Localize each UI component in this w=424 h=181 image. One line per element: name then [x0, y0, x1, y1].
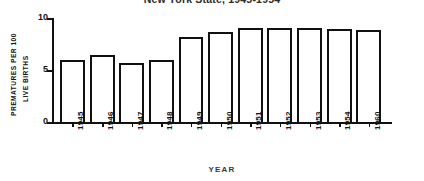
- chart-title: New York State, 1945-1954: [0, 0, 424, 5]
- y-tick-label-5: 5: [43, 64, 48, 75]
- x-tick-1946: [102, 122, 104, 127]
- x-tick-1945: [72, 122, 74, 127]
- y-tick-label-10: 10: [38, 12, 48, 23]
- y-axis-label-line-2: LIVE BIRTHS: [22, 55, 29, 102]
- x-tick-1953: [310, 122, 312, 127]
- x-tick-1948: [161, 122, 163, 127]
- y-tick-label-0: 0: [43, 116, 48, 127]
- x-label-1947: 1947: [136, 111, 145, 130]
- x-label-1946: 1946: [106, 111, 115, 130]
- x-tick-1949: [191, 122, 193, 127]
- x-tick-1960: [369, 122, 371, 127]
- x-label-1954: 1954: [343, 111, 352, 130]
- x-label-1950: 1950: [225, 111, 234, 130]
- x-tick-1951: [250, 122, 252, 127]
- y-axis-label-line-1: PREMATURES PER 100: [10, 33, 17, 116]
- x-label-1960: 1960: [373, 111, 382, 130]
- x-label-1949: 1949: [195, 111, 204, 130]
- bar-1954: [327, 29, 352, 122]
- x-label-1953: 1953: [314, 111, 323, 130]
- x-tick-marks: [52, 122, 392, 127]
- x-tick-1954: [339, 122, 341, 127]
- x-label-1948: 1948: [165, 111, 174, 130]
- x-label-1952: 1952: [284, 111, 293, 130]
- x-label-1945: 1945: [76, 111, 85, 130]
- bar-series: [52, 14, 392, 122]
- y-axis-label: PREMATURES PER 100 LIVE BIRTHS: [2, 16, 28, 120]
- x-axis-title: YEAR: [52, 165, 392, 174]
- bar-1953: [297, 28, 322, 122]
- bar-1950: [208, 32, 233, 122]
- prematures-bar-chart: New York State, 1945-1954 PREMATURES PER…: [0, 0, 424, 181]
- x-tick-1950: [221, 122, 223, 127]
- x-axis-category-labels: 1945194619471948194919501951195219531954…: [52, 128, 392, 162]
- bar-1951: [238, 28, 263, 122]
- plot-area: 10 5 0: [52, 14, 392, 124]
- x-tick-1947: [132, 122, 134, 127]
- bar-1952: [267, 28, 292, 122]
- x-label-1951: 1951: [254, 111, 263, 130]
- bar-1949: [179, 37, 204, 122]
- x-tick-1952: [280, 122, 282, 127]
- bar-1960: [356, 30, 381, 122]
